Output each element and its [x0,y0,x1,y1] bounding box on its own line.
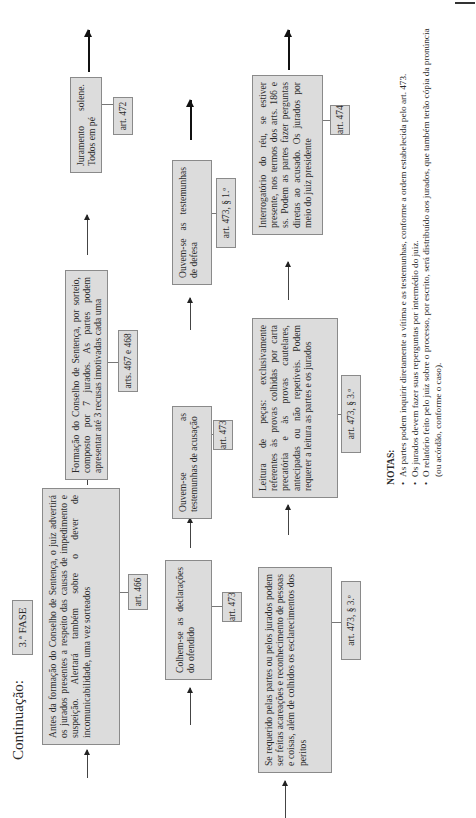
ref-art-473-par-3-a: art. 473, § 3.º [341,581,361,660]
connector [108,362,118,363]
ref-art-474: art. 474 [330,105,350,135]
notes-heading: NOTAS: [385,25,396,485]
step-juror-warning: Antes da formação do Conselho de Sentenç… [42,488,120,745]
connector [332,622,341,623]
step-confrontations: Se requerido pelas partes ou pelos jurad… [258,567,332,773]
note-item: Os jurados devem fazer suas reperguntas … [410,25,421,485]
step-solemn-oath: Juramento solene. Todos em pé [70,77,102,173]
exit-arrow-row-2 [190,100,192,140]
page-title: Continuação: [10,680,27,760]
ref-arts-467-468: arts. 467 e 468 [118,330,138,392]
ref-art-473-b: art. 473 [213,420,233,450]
entry-arrow-row-1 [87,750,88,778]
arrow-2-3 [87,215,88,255]
connector [323,120,330,121]
notes-section: NOTAS: As partes podem inquirir diretame… [385,25,444,485]
entry-arrow-row-3 [285,781,286,818]
phase-label: 3.ª FASE [12,600,33,655]
arrow-2b-2c [190,298,191,330]
note-item: O relatório feito pelo juiz sobre o proc… [421,25,444,485]
arrow-3b-3c [288,262,289,300]
ref-art-473-par-1: art. 473, § 1.º [216,178,236,248]
ref-art-473-a: art. 473 [222,592,242,622]
step-defense-witnesses: Ouvem-se as testemunhas de defesa [172,160,212,285]
connector [120,592,128,593]
entry-arrow-row-2 [190,688,191,725]
step-council-formation: Formação do Conselho de Sentença, por so… [65,270,108,480]
step-victim-statements: Colhem-se as declarações do ofendido [165,560,212,680]
arrow-2a-2b [190,518,191,548]
connector [102,104,113,105]
ref-art-472: art. 472 [113,97,133,135]
notes-list: As partes podem inquirir diretamente a v… [398,25,444,485]
page-edge-mark [455,2,475,4]
connector [212,606,222,607]
ref-art-473-par-3-b: art. 473, § 3.º [341,375,361,453]
exit-arrow-row-3 [288,30,290,70]
step-defendant-interrogation: Interrogatório do réu, se estiver presen… [252,75,323,235]
ref-art-466: art. 466 [128,574,148,610]
note-item: As partes podem inquirir diretamente a v… [398,25,409,485]
step-reading-documents: Leitura de peças: exclusivamente referen… [252,318,338,498]
step-prosecution-witnesses: Ouvem-se as testemunhas de acusação [172,406,212,519]
exit-arrow-row-1 [88,30,90,72]
arrow-3a-3b [288,505,289,535]
